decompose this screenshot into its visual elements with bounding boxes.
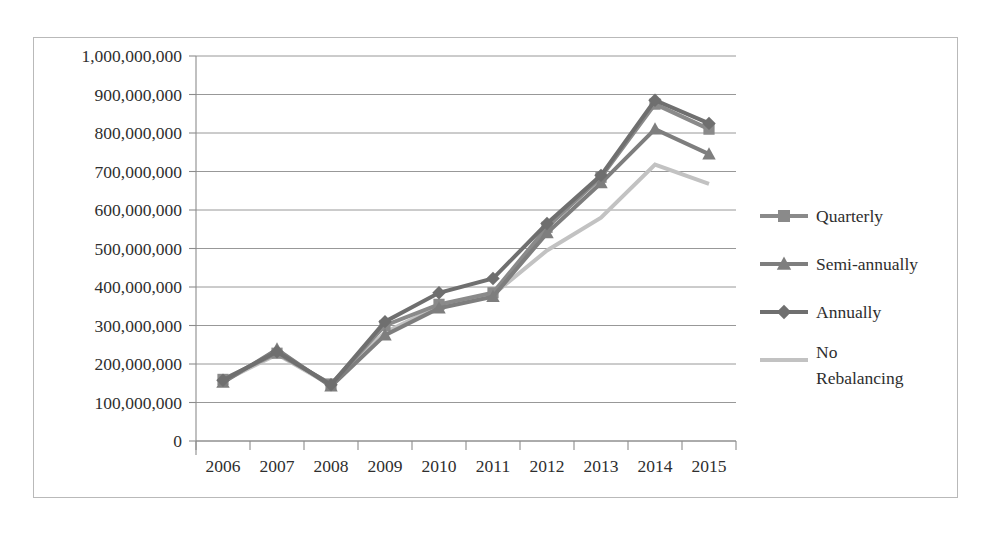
y-tick-label: 500,000,000 bbox=[95, 239, 183, 259]
legend-item-no-rebalancing[interactable]: NoRebalancing bbox=[760, 342, 904, 388]
y-tick-label: 700,000,000 bbox=[95, 162, 183, 182]
data-series bbox=[216, 94, 715, 392]
y-axis: 1,000,000,000900,000,000800,000,000700,0… bbox=[81, 46, 196, 455]
y-tick-label: 300,000,000 bbox=[95, 316, 183, 336]
legend-item-semi-annually[interactable]: Semi-annually bbox=[760, 254, 918, 274]
x-tick-label: 2007 bbox=[260, 456, 295, 476]
gridlines bbox=[196, 56, 736, 441]
data-point-marker bbox=[778, 210, 790, 222]
y-tick-label: 900,000,000 bbox=[95, 85, 183, 105]
series-semi-annually bbox=[216, 122, 715, 391]
legend-item-annually[interactable]: Annually bbox=[760, 302, 881, 322]
x-tick-label: 2012 bbox=[530, 456, 565, 476]
chart-frame: 1,000,000,000900,000,000800,000,000700,0… bbox=[33, 37, 958, 498]
legend-label: Quarterly bbox=[816, 206, 883, 226]
y-tick-label: 1,000,000,000 bbox=[81, 46, 182, 66]
series-annually bbox=[216, 94, 715, 392]
series-line bbox=[223, 129, 709, 386]
x-tick-label: 2006 bbox=[206, 456, 241, 476]
series-no-rebalancing bbox=[223, 165, 709, 386]
x-tick-label: 2009 bbox=[368, 456, 403, 476]
y-tick-label: 800,000,000 bbox=[95, 123, 183, 143]
data-point-marker bbox=[648, 122, 661, 134]
y-tick-label: 0 bbox=[173, 431, 182, 451]
series-line bbox=[223, 165, 709, 386]
x-tick-label: 2008 bbox=[314, 456, 349, 476]
series-line bbox=[223, 100, 709, 385]
x-tick-label: 2015 bbox=[692, 456, 727, 476]
x-axis: 2006200720082009201020112012201320142015 bbox=[196, 441, 736, 476]
chart-legend: QuarterlySemi-annuallyAnnuallyNoRebalanc… bbox=[760, 206, 918, 388]
legend-label: Annually bbox=[816, 302, 881, 322]
x-tick-label: 2013 bbox=[584, 456, 619, 476]
y-tick-label: 100,000,000 bbox=[95, 393, 183, 413]
y-tick-label: 200,000,000 bbox=[95, 354, 183, 374]
x-tick-label: 2010 bbox=[422, 456, 457, 476]
data-point-marker bbox=[777, 305, 791, 319]
x-tick-label: 2011 bbox=[476, 456, 510, 476]
x-tick-label: 2014 bbox=[638, 456, 673, 476]
legend-label: Semi-annually bbox=[816, 254, 918, 274]
y-tick-label: 600,000,000 bbox=[95, 200, 183, 220]
legend-label: No bbox=[816, 342, 838, 362]
legend-label-line2: Rebalancing bbox=[816, 368, 904, 388]
line-chart: 1,000,000,000900,000,000800,000,000700,0… bbox=[34, 38, 959, 499]
y-tick-label: 400,000,000 bbox=[95, 277, 183, 297]
legend-item-quarterly[interactable]: Quarterly bbox=[760, 206, 883, 226]
